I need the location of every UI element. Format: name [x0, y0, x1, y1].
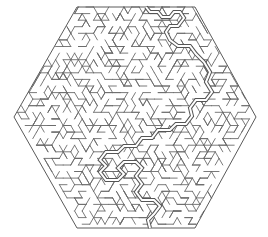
- maze-canvas: Hexagonal maze with solution: [0, 0, 268, 237]
- maze-image: [0, 0, 268, 237]
